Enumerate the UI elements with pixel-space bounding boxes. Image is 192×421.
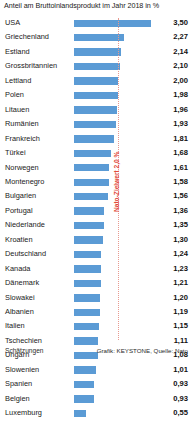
bar-fill	[74, 135, 114, 142]
bar	[74, 164, 109, 171]
bar-row: Griechenland2,27	[0, 32, 192, 46]
bar-value-label: 1,11	[174, 336, 188, 346]
bar-fill	[74, 280, 101, 287]
bar	[74, 135, 114, 142]
bar-value-label: 1,19	[173, 307, 188, 317]
bar-row: Albanien1,19	[0, 307, 192, 321]
bar	[74, 222, 104, 229]
bar-row: Niederlande1,35	[0, 220, 192, 234]
bar	[74, 280, 101, 287]
bar-value-label: 1,96	[173, 105, 188, 115]
bar-value-label: 1,36	[173, 206, 188, 216]
bar-value-label: 1,15	[173, 321, 188, 331]
bar-fill	[74, 395, 94, 402]
bar-fill	[74, 48, 121, 55]
bar	[74, 410, 86, 417]
bar	[74, 265, 101, 272]
bar-value-label: 2,14	[173, 47, 188, 57]
bar-value-label: 1,23	[173, 264, 188, 274]
bar-fill	[74, 179, 109, 186]
bar	[74, 150, 111, 157]
bar-fill	[74, 323, 99, 330]
bar	[74, 309, 100, 316]
bar-row: Slowakei1,20	[0, 293, 192, 307]
bar-value-label: 1,01	[173, 365, 188, 375]
bar-value-label: 1,20	[173, 293, 188, 303]
bar-category-label: Griechenland	[5, 32, 49, 42]
bar-fill	[74, 164, 109, 171]
bar-category-label: Estland	[5, 47, 30, 57]
bar-fill	[74, 106, 117, 113]
bar-row: Grossbritannien2,10	[0, 61, 192, 75]
bar-category-label: USA	[5, 18, 20, 28]
bar-category-label: Tschechien	[5, 336, 42, 346]
bar	[74, 337, 98, 344]
bar-row: Frankreich1,81	[0, 134, 192, 148]
bar-row: Slowenien1,01	[0, 365, 192, 379]
bar	[74, 352, 98, 359]
bar-fill	[74, 337, 98, 344]
bar-row: Belgien0,93	[0, 394, 192, 408]
bar-fill	[74, 251, 101, 258]
bar-fill	[74, 265, 101, 272]
bar-row: Litauen1,96	[0, 105, 192, 119]
bar-value-label: 0,93	[173, 394, 188, 404]
bar	[74, 92, 118, 99]
bar-value-label: 1,24	[173, 249, 188, 259]
chart-title: Anteil am Bruttoinlandsprodukt im Jahr 2…	[4, 1, 159, 10]
bar-fill	[74, 92, 118, 99]
bar-row: Polen1,98	[0, 90, 192, 104]
bar-fill	[74, 34, 124, 41]
bar-category-label: Slowenien	[5, 365, 39, 375]
bar-value-label: 1,93	[173, 119, 188, 129]
bar-row: Italien1,15	[0, 321, 192, 335]
bar-fill	[74, 121, 116, 128]
bar-fill	[74, 294, 100, 301]
bar-value-label: 0,55	[173, 408, 188, 418]
bar-fill	[74, 63, 120, 70]
bar	[74, 323, 99, 330]
bar-category-label: Montenegro	[5, 177, 44, 187]
bar-fill	[74, 410, 86, 417]
bar-category-label: Litauen	[5, 105, 29, 115]
chart-plot-area: USA3,50Griechenland2,27Estland2,14Grossb…	[0, 18, 192, 338]
bar-row: Dänemark1,21	[0, 278, 192, 292]
bar	[74, 48, 121, 55]
bar-category-label: Niederlande	[5, 220, 45, 230]
bar-category-label: Dänemark	[5, 278, 39, 288]
bar-value-label: 2,10	[173, 61, 188, 71]
bar-category-label: Frankreich	[5, 134, 40, 144]
bar-category-label: Norwegen	[5, 163, 39, 173]
bar-row: Estland2,14	[0, 47, 192, 61]
bar-category-label: Albanien	[5, 307, 34, 317]
bar-category-label: Rumänien	[5, 119, 39, 129]
bar-row: Kroatien1,30	[0, 235, 192, 249]
source-credit: Grafik: KEYSTONE, Quelle: Nato	[97, 347, 188, 355]
footnote-estimates: Schätzungen	[5, 347, 44, 355]
bar-value-label: 1,98	[173, 90, 188, 100]
bar-category-label: Luxemburg	[5, 408, 42, 418]
bar-fill	[74, 150, 111, 157]
bar-category-label: Bulgarien	[5, 191, 36, 201]
bar-row: USA3,50	[0, 18, 192, 32]
bar-category-label: Kroatien	[5, 235, 33, 245]
bar	[74, 34, 124, 41]
bar-category-label: Polen	[5, 90, 24, 100]
bar	[74, 121, 116, 128]
bar-fill	[74, 381, 94, 388]
bar-value-label: 2,00	[173, 76, 188, 86]
bar-value-label: 3,50	[173, 18, 188, 28]
bar-fill	[74, 352, 98, 359]
bar-category-label: Italien	[5, 321, 25, 331]
bar-row: Rumänien1,93	[0, 119, 192, 133]
bar-fill	[74, 193, 108, 200]
bar-value-label: 1,68	[173, 148, 188, 158]
bar	[74, 106, 117, 113]
bar-value-label: 1,61	[173, 163, 188, 173]
bar-value-label: 1,81	[173, 134, 188, 144]
bar-category-label: Spanien	[5, 379, 32, 389]
bar	[74, 179, 109, 186]
bar-category-label: Deutschland	[5, 249, 46, 259]
bar-fill	[74, 207, 104, 214]
